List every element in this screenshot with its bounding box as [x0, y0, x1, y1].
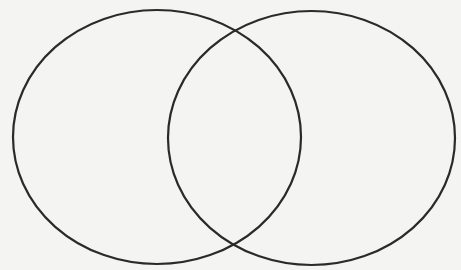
venn-diagram — [0, 0, 461, 270]
venn-circle-right — [168, 11, 455, 265]
venn-svg — [0, 0, 461, 270]
venn-circle-left — [13, 10, 301, 264]
